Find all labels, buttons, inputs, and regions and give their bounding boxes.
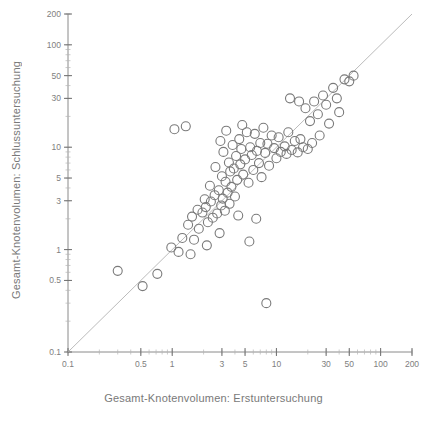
data-point bbox=[234, 211, 243, 220]
data-point bbox=[138, 282, 147, 291]
data-point bbox=[236, 160, 245, 169]
data-point bbox=[325, 119, 334, 128]
data-point bbox=[252, 214, 261, 223]
y-tick-label: 1 bbox=[56, 245, 61, 255]
data-point bbox=[315, 131, 324, 140]
x-tick-label: 5 bbox=[243, 359, 248, 369]
data-point bbox=[313, 110, 322, 119]
data-point bbox=[335, 108, 344, 117]
y-axis-title: Gesamt-Knotenvolumen: Schlussuntersuchun… bbox=[10, 0, 22, 360]
y-tick-label: 10 bbox=[52, 142, 62, 152]
data-point bbox=[265, 161, 274, 170]
data-point bbox=[254, 159, 263, 168]
data-point bbox=[215, 229, 224, 238]
data-point bbox=[293, 148, 302, 157]
plot-canvas: 0.10.5135103050100200 0.10.5135103050100… bbox=[0, 0, 427, 422]
data-point bbox=[310, 97, 319, 106]
data-point bbox=[237, 145, 246, 154]
y-tick-label: 50 bbox=[52, 71, 62, 81]
data-point bbox=[259, 123, 268, 132]
data-point bbox=[222, 126, 231, 135]
data-point bbox=[113, 266, 122, 275]
data-point bbox=[170, 125, 179, 134]
y-tick-label: 5 bbox=[56, 173, 61, 183]
data-point bbox=[290, 137, 299, 146]
x-tick-label: 1 bbox=[170, 359, 175, 369]
x-axis-tick-labels: 0.10.5135103050100200 bbox=[62, 359, 419, 369]
data-point bbox=[322, 100, 331, 109]
y-tick-label: 0.1 bbox=[49, 347, 61, 357]
y-axis-tick-labels: 0.10.5135103050100200 bbox=[47, 9, 61, 357]
x-tick-label: 30 bbox=[321, 359, 331, 369]
data-point bbox=[332, 94, 341, 103]
y-tick-label: 200 bbox=[47, 9, 61, 19]
data-point bbox=[194, 224, 203, 233]
data-point bbox=[186, 250, 195, 259]
data-point bbox=[211, 163, 220, 172]
x-tick-label: 10 bbox=[272, 359, 282, 369]
data-point bbox=[306, 117, 315, 126]
data-point bbox=[319, 91, 328, 100]
data-point bbox=[181, 122, 190, 131]
x-tick-label: 3 bbox=[220, 359, 225, 369]
x-tick-label: 200 bbox=[405, 359, 419, 369]
data-point bbox=[178, 233, 187, 242]
y-tick-label: 100 bbox=[47, 40, 61, 50]
scatter-plot-figure: 0.10.5135103050100200 0.10.5135103050100… bbox=[0, 0, 427, 422]
data-point bbox=[286, 94, 295, 103]
data-point bbox=[233, 175, 242, 184]
y-tick-label: 3 bbox=[56, 196, 61, 206]
data-point bbox=[216, 137, 225, 146]
data-point bbox=[224, 158, 233, 167]
data-point bbox=[270, 144, 279, 153]
data-point bbox=[308, 138, 317, 147]
x-tick-label: 0.5 bbox=[135, 359, 147, 369]
data-point bbox=[245, 237, 254, 246]
data-point bbox=[261, 148, 270, 157]
data-point bbox=[230, 192, 239, 201]
data-point bbox=[219, 147, 228, 156]
data-point bbox=[295, 97, 304, 106]
x-tick-label: 50 bbox=[345, 359, 355, 369]
x-tick-label: 0.1 bbox=[62, 359, 74, 369]
x-tick-label: 100 bbox=[374, 359, 388, 369]
data-point bbox=[272, 154, 281, 163]
data-point bbox=[235, 135, 244, 144]
data-point bbox=[153, 269, 162, 278]
x-axis-title: Gesamt-Knotenvolumen: Erstuntersuchung bbox=[0, 392, 427, 404]
data-point bbox=[190, 235, 199, 244]
data-point-group bbox=[113, 71, 358, 308]
data-point bbox=[205, 181, 214, 190]
data-point bbox=[244, 178, 253, 187]
data-point bbox=[174, 247, 183, 256]
data-point bbox=[262, 299, 271, 308]
data-point bbox=[257, 173, 266, 182]
data-point bbox=[239, 170, 248, 179]
data-point bbox=[241, 155, 250, 164]
y-tick-label: 30 bbox=[52, 93, 62, 103]
y-tick-label: 0.5 bbox=[49, 275, 61, 285]
data-point bbox=[238, 120, 247, 129]
data-point bbox=[250, 129, 259, 138]
data-point bbox=[202, 241, 211, 250]
